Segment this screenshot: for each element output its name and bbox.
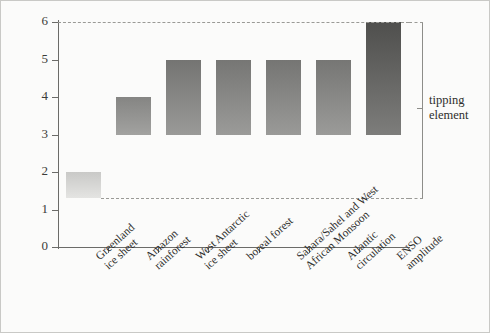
y-tick-3: 3 [52,135,58,136]
y-tick-5: 5 [52,60,58,61]
x-category-label-boreal-forest: boreal forest [244,253,252,262]
y-tick-label-6: 6 [42,13,49,29]
x-category-label-line: Sahara/Sahel and West [294,253,302,262]
bar-sahara-sahel-and-west-african-monsoon [266,60,301,135]
y-tick-label-4: 4 [42,88,49,104]
tipping-element-bracket-bottom-connector [409,198,423,199]
x-category-label-line: ice sheet [202,262,210,271]
tipping-element-legend-line: element [429,108,489,123]
tipping-element-bracket [422,22,423,198]
y-tick-4: 4 [52,97,58,98]
tipping-element-bracket-nub [417,108,423,109]
bar-atlantic-circulation [316,60,351,135]
x-category-label-greenland-ice-sheet: Greenlandice sheet [93,253,110,272]
x-category-label-west-antarctic-ice-sheet: West Antarcticice sheet [193,253,210,272]
x-category-label-line: rainforest [152,262,160,271]
y-tick-label-2: 2 [42,163,49,179]
x-category-label-line: African Monsoon [302,262,310,271]
figure-panel: global warming threshold/°C 0123456 Gree… [0,0,490,333]
x-category-label-line: Atlantic [344,253,352,262]
y-tick-1: 1 [52,210,58,211]
x-category-label-line: Amazon [143,253,151,262]
x-category-label-amazon-rainforest: Amazonrainforest [143,253,160,272]
bar-west-antarctic-ice-sheet [166,60,201,135]
y-tick-label-0: 0 [42,238,49,254]
y-tick-label-3: 3 [42,126,49,142]
x-category-label-line: circulation [352,262,360,271]
tipping-element-legend-line: tipping [429,93,489,108]
tipping-element-bracket-top-connector [409,22,423,23]
y-tick-label-5: 5 [42,51,49,67]
x-category-label-line: West Antarctic [193,253,201,262]
x-category-label-line: Greenland [93,253,101,262]
bar-boreal-forest [216,60,251,135]
bar-amazon-rainforest [116,97,151,135]
upper-threshold-dashed-line [58,22,409,23]
x-category-label-enso-amplitude: ENSOamplitude [394,253,411,272]
x-category-label-sahara-sahel-and-west-african-monsoon: Sahara/Sahel and WestAfrican Monsoon [294,253,311,272]
x-category-label-line: amplitude [402,262,410,271]
x-category-label-line: boreal forest [244,253,252,262]
y-tick-2: 2 [52,172,58,173]
x-category-label-line: ice sheet [101,262,109,271]
bar-greenland-ice-sheet [66,172,101,198]
bar-enso-amplitude [366,22,401,135]
x-category-label-line: ENSO [394,253,402,262]
x-category-label-atlantic-circulation: Atlanticcirculation [344,253,361,272]
y-tick-label-1: 1 [42,201,49,217]
tipping-element-legend-label: tippingelement [429,93,489,123]
y-tick-0: 0 [52,247,58,248]
